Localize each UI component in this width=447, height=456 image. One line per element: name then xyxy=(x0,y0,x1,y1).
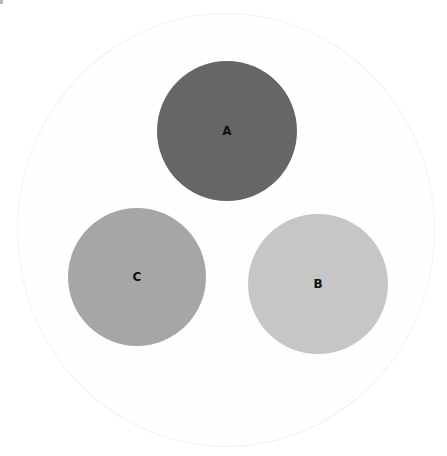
corner-mark xyxy=(0,0,3,4)
circle-label: B xyxy=(313,277,322,291)
circle-c: C xyxy=(68,208,206,346)
circle-a: A xyxy=(157,61,297,201)
circle-b: B xyxy=(248,214,388,354)
circle-label: A xyxy=(222,124,231,138)
circle-label: C xyxy=(133,270,142,284)
